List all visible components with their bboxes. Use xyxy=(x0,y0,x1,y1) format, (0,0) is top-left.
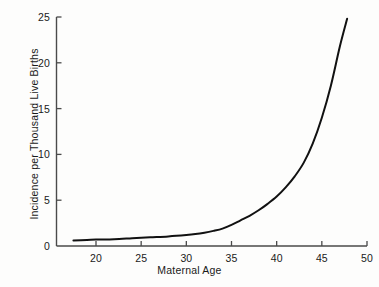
axis-lines xyxy=(57,17,368,246)
x-axis-ticks xyxy=(96,241,367,246)
x-tick-label: 20 xyxy=(90,252,102,264)
y-tick-label: 0 xyxy=(20,240,50,252)
incidence-curve xyxy=(73,19,347,241)
chart-figure: 0510152025 20253035404550 Maternal Age I… xyxy=(0,0,379,287)
y-tick-label: 25 xyxy=(20,11,50,23)
y-axis-ticks xyxy=(57,17,62,200)
x-tick-label: 25 xyxy=(135,252,147,264)
y-axis-title: Incidence per Thousand Live Births xyxy=(28,34,40,234)
x-tick-label: 40 xyxy=(271,252,283,264)
x-tick-label: 35 xyxy=(226,252,238,264)
x-tick-label: 30 xyxy=(180,252,192,264)
x-tick-label: 45 xyxy=(316,252,328,264)
x-axis-title: Maternal Age xyxy=(0,264,379,276)
x-tick-label: 50 xyxy=(361,252,373,264)
plot-area xyxy=(0,0,379,287)
